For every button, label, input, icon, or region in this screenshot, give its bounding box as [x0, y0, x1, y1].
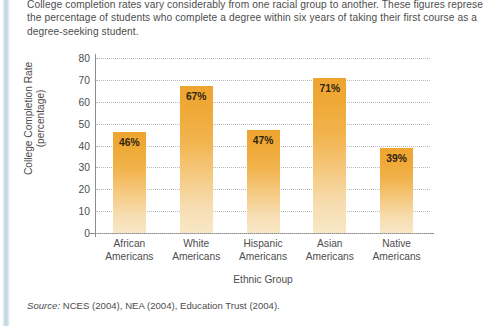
bar-chart: 80706050403020100 46%67%47%71%39% Colleg… [0, 46, 444, 296]
x-axis-title: Ethnic Group [96, 274, 430, 285]
intro-line-2: the percentage of students who complete … [27, 11, 447, 24]
bar-value-label: 47% [247, 135, 280, 146]
source-citation: Source: NCES (2004), NEA (2004), Educati… [27, 300, 280, 311]
bar-value-label: 46% [113, 137, 146, 148]
y-axis-title-line-2: (percentage) [35, 48, 47, 188]
y-axis-tick-label: 50 [60, 118, 90, 129]
source-label: Source: [27, 300, 60, 311]
bar: 47% [247, 130, 280, 233]
bar-value-label: 67% [180, 91, 213, 102]
gridline [96, 80, 430, 81]
bar: 39% [380, 148, 413, 233]
y-axis-tick-label: 70 [60, 74, 90, 85]
y-axis-tick-label: 10 [60, 206, 90, 217]
bar: 71% [313, 78, 346, 233]
source-text: NCES (2004), NEA (2004), Education Trust… [60, 300, 280, 311]
y-axis-title-line-1: College Completion Rate [23, 48, 35, 188]
gridline [96, 233, 430, 234]
x-axis-category-label: NativeAmericans [354, 238, 440, 263]
y-axis-tick-label: 20 [60, 184, 90, 195]
intro-line-1: College completion rates vary considerab… [27, 0, 447, 11]
y-axis-tick-label: 40 [60, 140, 90, 151]
y-axis-tick-label: 80 [60, 53, 90, 64]
x-axis-category-label-line: Native [354, 238, 440, 251]
y-axis-title: College Completion Rate (percentage) [23, 48, 48, 188]
intro-paragraph: College completion rates vary considerab… [27, 0, 447, 38]
bar-value-label: 39% [380, 153, 413, 164]
x-axis-category-label-line: Americans [354, 251, 440, 264]
y-axis-tick-label: 30 [60, 162, 90, 173]
gridline [96, 58, 430, 59]
gridline [96, 124, 430, 125]
gridline [96, 102, 430, 103]
bar: 46% [113, 132, 146, 233]
bar: 67% [180, 86, 213, 233]
y-axis-tick-labels: 80706050403020100 [54, 58, 90, 233]
plot-area: 46%67%47%71%39% [96, 58, 430, 233]
intro-line-3: degree-seeking student. [27, 25, 447, 38]
y-axis-tick-label: 0 [60, 228, 90, 239]
bar-value-label: 71% [313, 83, 346, 94]
y-axis-tick-label: 60 [60, 96, 90, 107]
